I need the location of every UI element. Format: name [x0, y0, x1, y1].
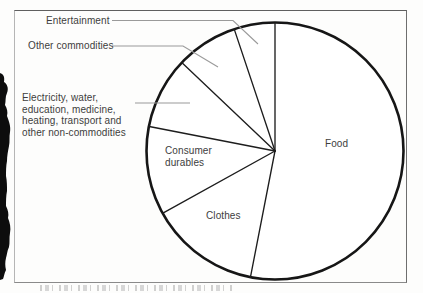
- pie-label-clothes: Clothes: [206, 210, 241, 222]
- cropped-caption-remnant: [40, 285, 235, 291]
- pie-label-electricity-line2: education, medicine,: [22, 104, 126, 116]
- pie-label-electricity-line1: Electricity, water,: [22, 92, 126, 104]
- pie-label-electricity-block: Electricity, water, education, medicine,…: [22, 92, 126, 138]
- pie-label-other-commodities: Other commodities: [28, 40, 114, 52]
- pie-label-consumer-durables: Consumer durables: [165, 145, 212, 168]
- pie-label-consumer-line1: Consumer: [165, 145, 212, 157]
- pie-label-entertainment: Entertainment: [46, 15, 110, 27]
- pie-label-electricity-line4: other non-commodities: [22, 127, 126, 139]
- scanned-figure-page: Entertainment Other commodities Electric…: [0, 0, 423, 293]
- pie-label-electricity-line3: heating, transport and: [22, 115, 126, 127]
- pie-label-consumer-line2: durables: [165, 157, 212, 169]
- pie-label-food: Food: [325, 138, 348, 150]
